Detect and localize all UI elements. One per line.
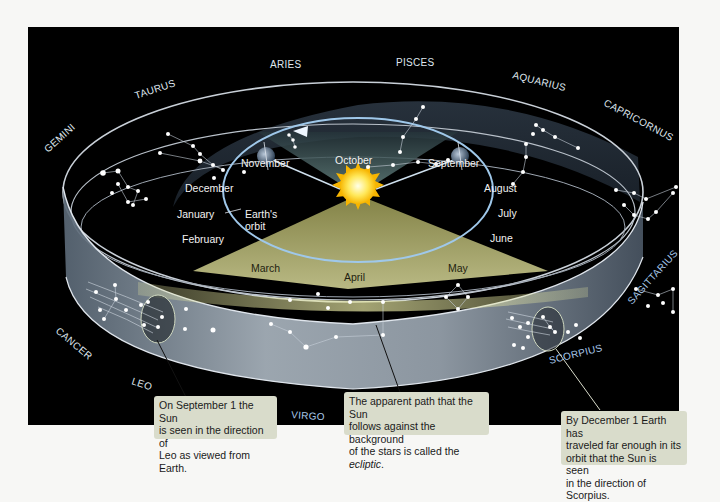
callout-ecliptic-line2: follows against the background	[349, 420, 484, 445]
callout-ecliptic-line1: The apparent path that the Sun	[349, 395, 484, 420]
month-october: October	[335, 154, 373, 166]
month-september: September	[428, 157, 480, 169]
callout-ecliptic: The apparent path that the Sun follows a…	[344, 392, 489, 435]
label-taurus: TAURUS	[133, 77, 177, 101]
month-april: April	[344, 271, 365, 283]
callout-ecliptic-suffix: .	[381, 458, 384, 470]
callout-scorpius-line4: in the direction of Scorpius.	[566, 477, 682, 502]
callout-leo-line2: is seen in the direction of	[159, 424, 272, 449]
diagram-canvas: ARIES PISCES TAURUS GEMINI AQUARIUS CAPR…	[28, 27, 679, 425]
orbit-label-line1: Earth's	[245, 208, 277, 220]
label-capricornus: CAPRICORNUS	[602, 97, 675, 143]
month-july: July	[498, 207, 517, 219]
callout-ecliptic-line3: of the stars is called the ecliptic.	[349, 445, 484, 470]
label-gemini: GEMINI	[42, 121, 77, 154]
callout-scorpius: By December 1 Earth has traveled far eno…	[561, 411, 687, 465]
month-june: June	[490, 232, 513, 244]
scorpius-highlight	[532, 307, 564, 351]
label-leo: LEO	[130, 375, 153, 392]
month-may: May	[448, 262, 469, 274]
callout-scorpius-line3: orbit that the Sun is seen	[566, 452, 682, 477]
callout-leo: On September 1 the Sun is seen in the di…	[154, 396, 277, 439]
month-february: February	[182, 233, 225, 245]
label-pisces: PISCES	[396, 57, 435, 68]
orbit-label-line2: orbit	[245, 220, 266, 232]
callout-ecliptic-prefix: of the stars is called the	[349, 445, 459, 457]
callout-scorpius-line2: traveled far enough in its	[566, 439, 682, 452]
ecliptic-term: ecliptic	[349, 458, 381, 470]
month-january: January	[177, 208, 215, 220]
month-december: December	[185, 182, 234, 194]
callout-leo-line3: Leo as viewed from Earth.	[159, 449, 272, 474]
label-cancer: CANCER	[54, 325, 95, 362]
month-march: March	[251, 262, 280, 274]
month-august: August	[484, 182, 517, 194]
label-virgo: VIRGO	[291, 409, 325, 422]
label-aquarius: AQUARIUS	[512, 69, 568, 93]
label-aries: ARIES	[270, 59, 302, 70]
callout-scorpius-line1: By December 1 Earth has	[566, 414, 682, 439]
callout-leo-line1: On September 1 the Sun	[159, 399, 272, 424]
zodiac-diagram: ARIES PISCES TAURUS GEMINI AQUARIUS CAPR…	[28, 27, 679, 425]
month-november: November	[241, 157, 290, 169]
